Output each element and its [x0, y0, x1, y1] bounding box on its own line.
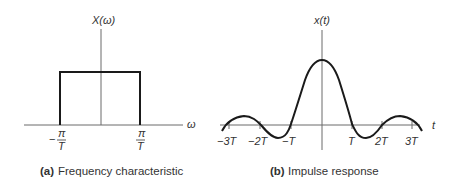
panel-b-tick-label: 2T [374, 135, 389, 147]
panel-a-frequency-characteristic: X(ω) ω − π T π T (a) Frequency character… [24, 14, 196, 177]
panel-a-tick-left-sign: − [49, 133, 55, 145]
panel-b-y-label: x(t) [313, 14, 330, 26]
panel-a-x-label: ω [187, 118, 196, 130]
panel-b-tick-label: −3T [217, 135, 238, 147]
panel-a-rect-spectrum [60, 72, 140, 125]
panel-a-tick-left-den: T [58, 140, 66, 152]
panel-a-tick-right-num: π [138, 127, 146, 139]
panel-b-tick-label: T [348, 135, 356, 147]
panel-b-tick-label: −T [282, 135, 296, 147]
panel-b-caption-tag: (b) [270, 165, 285, 177]
panel-b-tick-label: −2T [248, 135, 269, 147]
panel-a-tick-right-den: T [137, 140, 145, 152]
panel-a-tick-left-num: π [58, 127, 66, 139]
panel-b-impulse-response: x(t) t −3T −2T −T T 2T 3T (b) Impulse re… [217, 14, 436, 177]
panel-b-tick-label: 3T [405, 135, 419, 147]
diagram-canvas: X(ω) ω − π T π T (a) Frequency character… [0, 0, 458, 183]
panel-a-caption-tag: (a) [40, 165, 54, 177]
panel-b-caption-text: Impulse response [288, 165, 379, 177]
panel-a-caption-text: Frequency characteristic [58, 165, 184, 177]
panel-b-x-label: t [432, 119, 436, 131]
panel-a-y-label: X(ω) [91, 14, 116, 26]
